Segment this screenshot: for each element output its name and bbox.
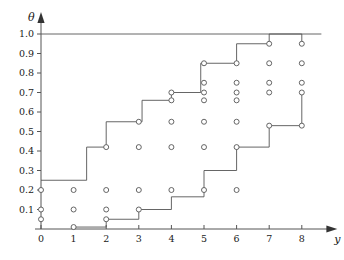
- y-tick-label: 0.1: [19, 204, 34, 215]
- data-point-marker: [234, 90, 239, 95]
- step-plot-figure: 0.10.20.30.40.50.60.70.80.91.0 012345678…: [0, 0, 344, 260]
- data-point-marker: [267, 90, 272, 95]
- data-point-marker: [202, 98, 207, 103]
- x-axis-label: y: [333, 233, 341, 246]
- data-point-marker: [136, 119, 141, 124]
- data-point-marker: [71, 207, 76, 212]
- data-point-marker: [299, 41, 304, 46]
- data-point-marker: [202, 80, 207, 85]
- data-point-marker: [169, 119, 174, 124]
- x-tick-label: 4: [168, 233, 174, 244]
- lower-staircase: [74, 93, 302, 228]
- data-point-marker: [267, 41, 272, 46]
- data-point-marker: [299, 90, 304, 95]
- data-point-marker: [202, 90, 207, 95]
- upper-staircase: [41, 34, 302, 180]
- y-tick-label: 0.4: [19, 145, 34, 156]
- data-point-marker: [136, 207, 141, 212]
- x-tick-label: 2: [103, 233, 109, 244]
- data-point-marker: [104, 217, 109, 222]
- data-point-marker: [104, 188, 109, 193]
- y-tick-label: 1.0: [19, 28, 34, 39]
- data-point-marker: [234, 145, 239, 150]
- y-tick-label: 0.8: [19, 67, 34, 78]
- data-point-marker: [267, 123, 272, 128]
- data-point-marker: [234, 80, 239, 85]
- axes-group: [35, 12, 337, 233]
- data-point-marker: [202, 145, 207, 150]
- y-tick-label: 0.3: [19, 165, 34, 176]
- plot-canvas: 0.10.20.30.40.50.60.70.80.91.0 012345678…: [0, 0, 344, 260]
- y-axis-label: θ: [28, 11, 35, 24]
- x-tick-label: 8: [299, 233, 305, 244]
- data-point-marker: [234, 188, 239, 193]
- x-tick-label: 5: [201, 233, 207, 244]
- y-axis-tick-group: 0.10.20.30.40.50.60.70.80.91.0: [19, 28, 41, 215]
- y-tick-label: 0.9: [19, 48, 34, 59]
- data-point-marker: [71, 225, 76, 230]
- y-tick-label: 0.5: [19, 126, 34, 137]
- staircase-series-group: [41, 34, 302, 227]
- data-point-marker: [202, 188, 207, 193]
- y-tick-label: 0.2: [19, 184, 34, 195]
- data-point-marker: [234, 61, 239, 66]
- data-point-marker: [234, 119, 239, 124]
- data-point-marker: [104, 145, 109, 150]
- x-tick-label: 3: [136, 233, 142, 244]
- data-point-marker: [39, 217, 44, 222]
- data-point-marker: [39, 207, 44, 212]
- x-tick-label: 0: [38, 233, 44, 244]
- x-tick-label: 1: [71, 233, 77, 244]
- data-point-marker: [136, 188, 141, 193]
- x-tick-label: 7: [266, 233, 272, 244]
- data-point-marker: [104, 207, 109, 212]
- data-point-marker: [169, 98, 174, 103]
- data-point-marker: [169, 188, 174, 193]
- x-axis-tick-group: 012345678: [38, 225, 305, 244]
- data-point-marker: [71, 188, 76, 193]
- data-point-marker: [202, 119, 207, 124]
- data-point-marker: [299, 80, 304, 85]
- data-point-marker: [169, 145, 174, 150]
- x-axis-arrowhead: [326, 225, 337, 232]
- data-point-marker: [299, 123, 304, 128]
- data-point-marker: [267, 61, 272, 66]
- data-point-marker: [169, 90, 174, 95]
- data-point-marker: [267, 80, 272, 85]
- data-point-marker: [136, 145, 141, 150]
- data-point-marker: [299, 61, 304, 66]
- data-point-marker: [39, 188, 44, 193]
- data-point-marker: [234, 98, 239, 103]
- data-point-marker: [202, 61, 207, 66]
- y-tick-label: 0.7: [19, 87, 34, 98]
- y-tick-label: 0.6: [19, 106, 34, 117]
- x-tick-label: 6: [234, 233, 240, 244]
- y-axis-arrowhead: [37, 12, 44, 23]
